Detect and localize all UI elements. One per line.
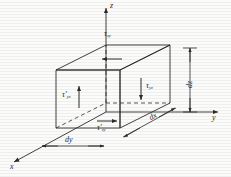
tau-right-subscript: yz bbox=[149, 85, 153, 90]
tau-left-subscript: yz bbox=[67, 94, 71, 99]
tau-top-subscript: zy bbox=[107, 33, 111, 38]
tau-right-label: τyz bbox=[146, 82, 153, 90]
dy-dimension-label: dy bbox=[65, 136, 73, 144]
y-axis-label: y bbox=[212, 114, 216, 122]
cube-top-face bbox=[56, 45, 170, 70]
cube-front-face bbox=[56, 70, 120, 128]
tau-top-label: τzy bbox=[104, 30, 111, 38]
z-axis-label: z bbox=[110, 2, 113, 10]
x-axis-label: x bbox=[10, 163, 14, 171]
dz-dimension-label: dz bbox=[186, 81, 194, 88]
tau-bottom-subscript: zy bbox=[102, 127, 106, 132]
stress-element-figure: z y x τzy τyz τ′yz τ′zy dz dx dy bbox=[0, 0, 231, 177]
tau-left-label: τ′yz bbox=[62, 91, 71, 99]
x-axis-line bbox=[14, 112, 106, 162]
diagram-canvas bbox=[0, 0, 231, 177]
tau-bottom-label: τ′zy bbox=[97, 124, 106, 132]
